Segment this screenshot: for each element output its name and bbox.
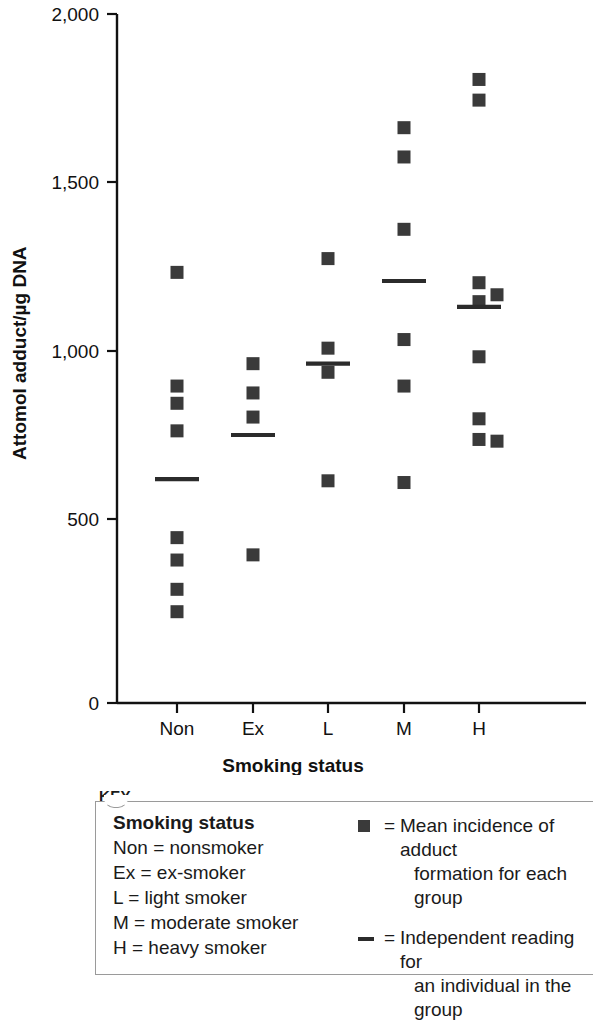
y-axis-title: Attomol adduct/µg DNA xyxy=(9,246,30,460)
data-point-marker xyxy=(171,605,184,618)
data-point-marker xyxy=(171,397,184,410)
data-point-marker xyxy=(247,357,260,370)
key-legend-text-individual: Independent reading for an individual in… xyxy=(400,926,590,1022)
key-left-row-m: M = moderate smoker xyxy=(113,910,353,935)
x-tick-label-l: L xyxy=(323,718,334,739)
data-point-marker xyxy=(473,350,486,363)
data-point-marker xyxy=(171,583,184,596)
key-right-column: = Mean incidence of adduct formation for… xyxy=(358,814,590,1024)
key-legend-text-individual-line1: Independent reading for xyxy=(400,927,574,972)
x-axis-title: Smoking status xyxy=(222,755,363,775)
key-notch-cover xyxy=(106,798,124,804)
data-point-marker xyxy=(473,94,486,107)
data-point-marker xyxy=(322,342,335,355)
data-point-marker xyxy=(247,548,260,561)
data-points-layer xyxy=(155,73,504,618)
y-axis: 2,000 1,500 1,000 500 0 Attomol adduct/µ… xyxy=(9,4,117,714)
data-point-marker xyxy=(322,366,335,379)
key-left-row-h: H = heavy smoker xyxy=(113,935,353,960)
dash-marker-icon xyxy=(358,926,384,941)
x-axis-ticks xyxy=(177,703,479,713)
data-point-marker xyxy=(491,288,504,301)
data-point-marker xyxy=(491,435,504,448)
data-point-marker xyxy=(171,266,184,279)
data-point-marker xyxy=(247,411,260,424)
data-point-marker xyxy=(398,380,411,393)
data-point-marker xyxy=(171,554,184,567)
data-point-marker xyxy=(473,73,486,86)
x-axis: Non Ex L M H Smoking status xyxy=(117,703,586,775)
data-point-marker xyxy=(247,386,260,399)
data-point-marker xyxy=(398,476,411,489)
y-tick-label-1000: 1,000 xyxy=(51,341,99,362)
data-point-marker xyxy=(171,424,184,437)
plot-area: 2,000 1,500 1,000 500 0 Attomol adduct/µ… xyxy=(0,0,586,775)
data-point-marker xyxy=(398,333,411,346)
y-tick-label-1500: 1,500 xyxy=(51,172,99,193)
data-point-marker xyxy=(473,433,486,446)
key-left-row-non: Non = nonsmoker xyxy=(113,835,353,860)
key-left-row-l: L = light smoker xyxy=(113,885,353,910)
y-tick-label-2000: 2,000 xyxy=(51,4,99,25)
data-point-marker xyxy=(473,276,486,289)
key-legend-text-mean: Mean incidence of adduct formation for e… xyxy=(400,814,590,910)
data-point-marker xyxy=(473,412,486,425)
key-legend-text-mean-line1: Mean incidence of adduct xyxy=(400,815,554,860)
data-point-marker xyxy=(398,223,411,236)
data-point-marker xyxy=(171,531,184,544)
square-marker-icon xyxy=(358,814,384,832)
key-legend-item-individual: = Independent reading for an individual … xyxy=(358,926,590,1022)
x-tick-label-h: H xyxy=(472,718,486,739)
x-tick-label-ex: Ex xyxy=(242,718,265,739)
scatter-plot-svg: 2,000 1,500 1,000 500 0 Attomol adduct/µ… xyxy=(0,0,586,775)
key-equals-sign-individual: = xyxy=(384,926,400,950)
x-tick-label-m: M xyxy=(396,718,412,739)
data-point-marker xyxy=(322,252,335,265)
data-point-marker xyxy=(171,380,184,393)
y-tick-label-500: 500 xyxy=(67,509,99,530)
key-left-row-ex: Ex = ex-smoker xyxy=(113,860,353,885)
x-tick-label-non: Non xyxy=(160,718,195,739)
key-legend-text-individual-line2: an individual in the group xyxy=(400,974,590,1022)
data-point-marker xyxy=(398,150,411,163)
y-axis-ticks xyxy=(107,14,117,703)
key-legend-item-mean: = Mean incidence of adduct formation for… xyxy=(358,814,590,910)
key-left-title: Smoking status xyxy=(113,812,353,834)
data-point-marker xyxy=(398,121,411,134)
data-point-marker xyxy=(322,474,335,487)
key-equals-sign-mean: = xyxy=(384,814,400,838)
key-left-column: Smoking status Non = nonsmoker Ex = ex-s… xyxy=(113,812,353,960)
y-tick-label-0: 0 xyxy=(88,693,99,714)
key-legend-text-mean-line2: formation for each group xyxy=(400,862,590,910)
